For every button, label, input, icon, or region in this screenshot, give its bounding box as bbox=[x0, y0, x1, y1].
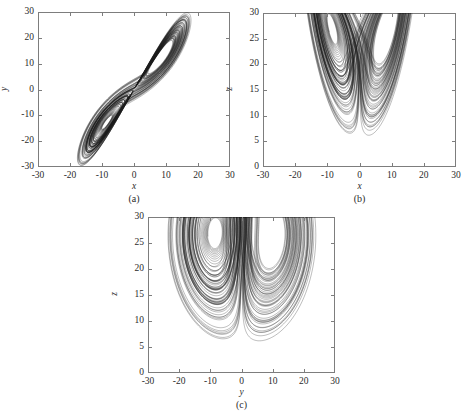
y-tick-right-b-1 bbox=[452, 141, 456, 142]
y-ticklabel-c-1: 5 bbox=[122, 342, 144, 352]
x-ticklabel-b-6: 30 bbox=[442, 171, 467, 181]
x-tick-top-b-1 bbox=[295, 13, 296, 17]
y-ticklabel-b-0: 0 bbox=[237, 162, 259, 172]
x-tick-a-4 bbox=[166, 163, 167, 167]
y-ticklabel-a-5: 20 bbox=[12, 33, 34, 43]
x-axis-label-c: y bbox=[232, 387, 252, 397]
x-tick-b-4 bbox=[392, 163, 393, 167]
attractor-trajectory-b bbox=[263, 13, 456, 167]
x-tick-top-c-5 bbox=[304, 217, 305, 221]
y-ticklabel-b-3: 15 bbox=[237, 85, 259, 95]
x-ticklabel-a-1: -20 bbox=[56, 171, 84, 181]
y-ticklabel-b-2: 10 bbox=[237, 111, 259, 121]
x-ticklabel-c-6: 30 bbox=[321, 377, 349, 387]
y-ticklabel-b-5: 25 bbox=[237, 34, 259, 44]
panel-caption-c: (c) bbox=[222, 399, 262, 410]
x-tick-a-3 bbox=[134, 163, 135, 167]
y-ticklabel-b-4: 20 bbox=[237, 59, 259, 69]
y-tick-b-5 bbox=[263, 39, 267, 40]
x-tick-top-a-3 bbox=[134, 12, 135, 16]
x-ticklabel-c-0: -30 bbox=[134, 377, 162, 387]
x-ticklabel-b-3: 0 bbox=[346, 171, 374, 181]
x-ticklabel-c-4: 10 bbox=[259, 377, 287, 387]
y-tick-right-b-5 bbox=[452, 39, 456, 40]
x-tick-a-5 bbox=[198, 163, 199, 167]
y-tick-b-1 bbox=[263, 141, 267, 142]
y-tick-c-3 bbox=[148, 295, 152, 296]
x-ticklabel-b-4: 10 bbox=[378, 171, 406, 181]
plot-panel-b: -30-20-100102030051015202530xz(b) bbox=[263, 13, 456, 167]
plot-panel-c: -30-20-100102030051015202530yz(c) bbox=[148, 217, 335, 373]
x-ticklabel-b-0: -30 bbox=[249, 171, 277, 181]
x-tick-c-1 bbox=[179, 369, 180, 373]
x-tick-c-3 bbox=[242, 369, 243, 373]
y-tick-b-3 bbox=[263, 90, 267, 91]
x-ticklabel-a-3: 0 bbox=[120, 171, 148, 181]
y-tick-right-a-2 bbox=[226, 115, 230, 116]
x-tick-c-2 bbox=[210, 369, 211, 373]
y-ticklabel-a-1: -20 bbox=[12, 136, 34, 146]
y-ticklabel-c-4: 20 bbox=[122, 264, 144, 274]
x-axis-label-a: x bbox=[124, 181, 144, 191]
x-tick-c-4 bbox=[273, 369, 274, 373]
y-tick-right-c-4 bbox=[331, 269, 335, 270]
x-ticklabel-a-6: 30 bbox=[216, 171, 244, 181]
y-tick-c-2 bbox=[148, 321, 152, 322]
x-tick-b-3 bbox=[360, 163, 361, 167]
y-tick-c-4 bbox=[148, 269, 152, 270]
y-tick-right-b-3 bbox=[452, 90, 456, 91]
y-ticklabel-c-6: 30 bbox=[122, 212, 144, 222]
x-tick-top-a-5 bbox=[198, 12, 199, 16]
x-ticklabel-a-0: -30 bbox=[24, 171, 52, 181]
plot-panel-a: -30-20-100102030-30-20-100102030xy(a) bbox=[38, 12, 230, 167]
y-ticklabel-c-0: 0 bbox=[122, 368, 144, 378]
x-ticklabel-b-2: -10 bbox=[313, 171, 341, 181]
x-ticklabel-b-5: 20 bbox=[410, 171, 438, 181]
y-tick-right-c-1 bbox=[331, 347, 335, 348]
y-tick-c-5 bbox=[148, 243, 152, 244]
y-tick-a-2 bbox=[38, 115, 42, 116]
y-ticklabel-c-2: 10 bbox=[122, 316, 144, 326]
x-ticklabel-b-1: -20 bbox=[281, 171, 309, 181]
y-tick-right-a-1 bbox=[226, 141, 230, 142]
x-tick-top-a-1 bbox=[70, 12, 71, 16]
attractor-trajectory-a bbox=[38, 12, 230, 167]
x-tick-b-2 bbox=[327, 163, 328, 167]
y-tick-a-3 bbox=[38, 90, 42, 91]
x-tick-top-c-3 bbox=[242, 217, 243, 221]
y-ticklabel-c-5: 25 bbox=[122, 238, 144, 248]
y-ticklabel-b-1: 5 bbox=[237, 136, 259, 146]
y-tick-right-c-2 bbox=[331, 321, 335, 322]
x-tick-b-1 bbox=[295, 163, 296, 167]
x-ticklabel-a-5: 20 bbox=[184, 171, 212, 181]
x-ticklabel-a-2: -10 bbox=[88, 171, 116, 181]
y-ticklabel-b-6: 30 bbox=[237, 8, 259, 18]
y-tick-a-5 bbox=[38, 38, 42, 39]
y-ticklabel-a-0: -30 bbox=[12, 162, 34, 172]
x-tick-a-1 bbox=[70, 163, 71, 167]
y-tick-right-b-2 bbox=[452, 116, 456, 117]
y-tick-a-4 bbox=[38, 64, 42, 65]
y-tick-b-2 bbox=[263, 116, 267, 117]
x-tick-a-2 bbox=[102, 163, 103, 167]
x-tick-top-c-2 bbox=[210, 217, 211, 221]
x-tick-top-b-2 bbox=[327, 13, 328, 17]
y-axis-label-a: y bbox=[0, 79, 9, 99]
x-ticklabel-c-3: 0 bbox=[228, 377, 256, 387]
x-tick-top-a-4 bbox=[166, 12, 167, 16]
y-axis-label-c: z bbox=[109, 284, 119, 304]
y-tick-c-1 bbox=[148, 347, 152, 348]
x-tick-b-5 bbox=[424, 163, 425, 167]
x-tick-top-a-2 bbox=[102, 12, 103, 16]
panel-caption-a: (a) bbox=[114, 193, 154, 204]
x-axis-label-b: x bbox=[350, 181, 370, 191]
x-tick-top-c-4 bbox=[273, 217, 274, 221]
y-ticklabel-c-3: 15 bbox=[122, 290, 144, 300]
y-tick-b-4 bbox=[263, 64, 267, 65]
x-ticklabel-c-1: -20 bbox=[165, 377, 193, 387]
y-ticklabel-a-4: 10 bbox=[12, 59, 34, 69]
attractor-trajectory-c bbox=[148, 217, 335, 373]
y-axis-label-b: z bbox=[224, 79, 234, 99]
x-tick-c-5 bbox=[304, 369, 305, 373]
y-tick-right-c-5 bbox=[331, 243, 335, 244]
